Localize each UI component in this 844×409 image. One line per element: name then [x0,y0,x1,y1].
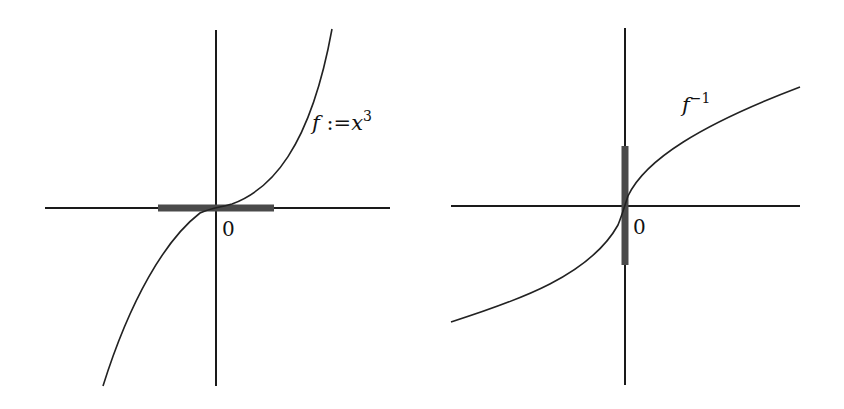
cubic-function-label: f :=x3 [310,108,372,135]
right-origin-label: 0 [633,215,646,239]
function-inverse-diagram: f :=x3 0 f−1 0 [0,0,844,409]
left-panel-cubic: f :=x3 0 [45,29,390,386]
left-origin-label: 0 [222,217,235,241]
right-panel-inverse: f−1 0 [451,28,800,385]
inverse-function-label: f−1 [680,90,710,117]
